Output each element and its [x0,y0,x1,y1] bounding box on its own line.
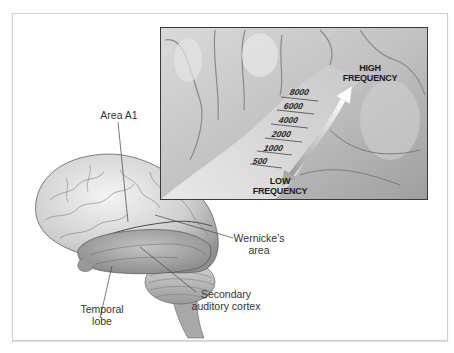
temporal-lobe-label: Temporal lobe [77,303,127,327]
secondary-line2: auditory cortex [186,300,266,312]
secondary-auditory-cortex-label: Secondary auditory cortex [186,288,266,312]
low-line: LOW [244,176,316,186]
secondary-line1: Secondary [186,288,266,300]
scale-6000: 6000 [283,101,304,111]
high-frequency-label: HIGH FREQUENCY [340,63,400,83]
inset-panel [161,28,428,200]
wernicke-line2: area [230,244,288,256]
temporal-line2: lobe [77,315,127,327]
scale-8000: 8000 [289,87,310,97]
temporal-line1: Temporal [77,303,127,315]
scale-4000: 4000 [278,115,299,125]
scale-2000: 2000 [271,129,292,139]
low-frequency-label: LOW FREQUENCY [244,176,316,196]
wernicke-line1: Wernicke's [230,232,288,244]
area-a1-label: Area A1 [96,109,142,121]
wernickes-area-label: Wernicke's area [230,232,288,256]
frequency-line: FREQUENCY [340,73,400,83]
frequency-line: FREQUENCY [244,186,316,196]
scale-1000: 1000 [263,143,284,153]
high-line: HIGH [340,63,400,73]
scale-500: 500 [252,156,268,166]
